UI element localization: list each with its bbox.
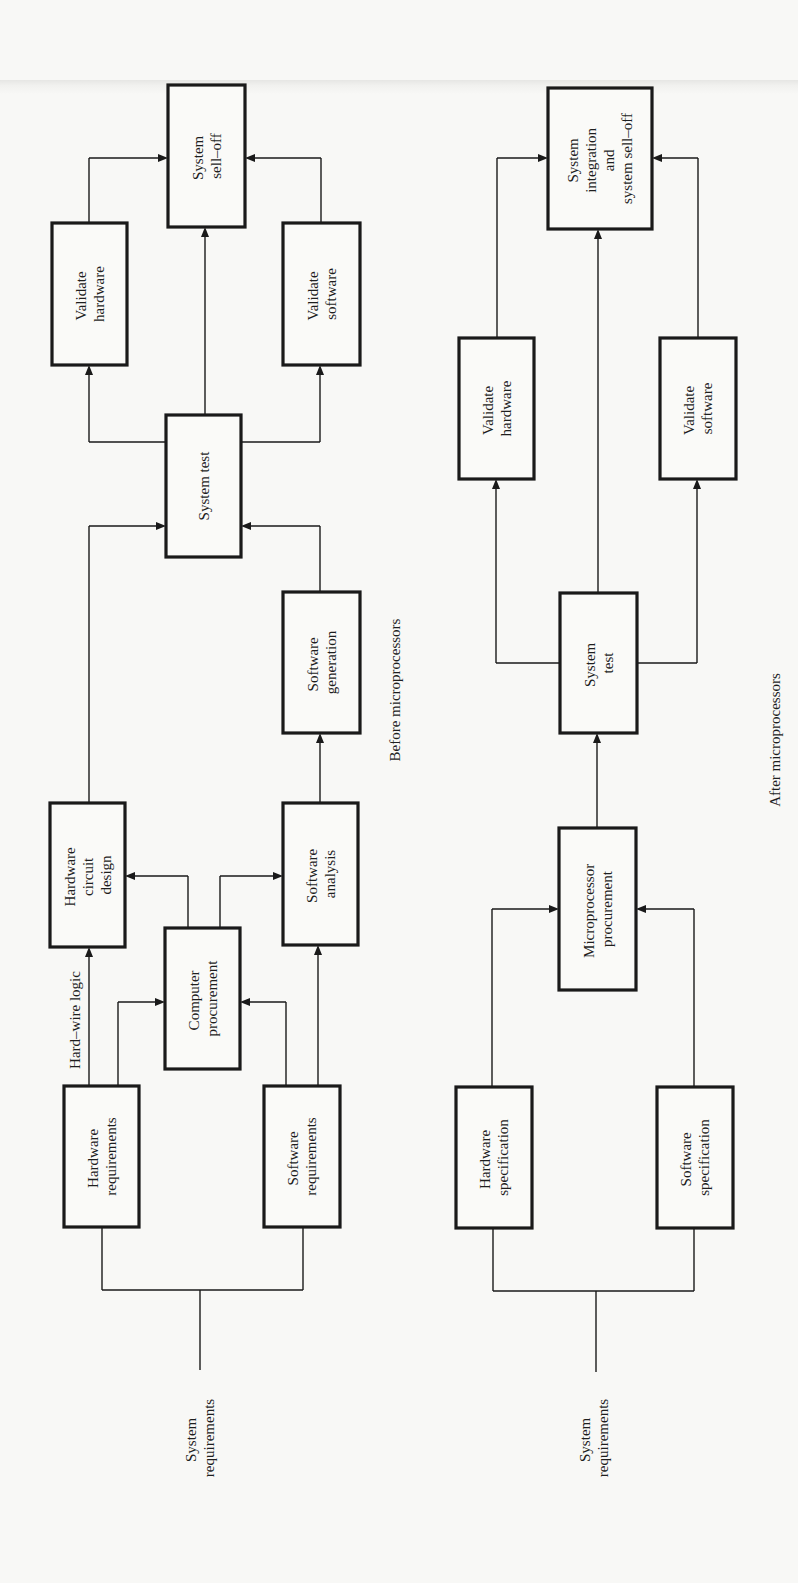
connector-systest-to-valsw [241, 365, 324, 442]
box-validate-software: Validate software [283, 223, 360, 365]
after-caption: After microprocessors [767, 673, 783, 807]
box-software-specification: Software specification [657, 1087, 733, 1228]
box-software-analysis: Software analysis [283, 803, 358, 945]
before-system-requirements-label: System requirements [183, 1399, 217, 1477]
connector-hwspec-to-micro [492, 905, 559, 1087]
box-after-system-test: System test [560, 593, 637, 733]
connector-computer-to-hwcircuit [125, 872, 188, 928]
connector-hwreq-to-hwcircuit [85, 947, 93, 1086]
before-diagram: Hardware requirements Software requireme… [50, 85, 403, 1477]
svg-text:System test: System test [196, 451, 212, 521]
connector-systest-to-selloff [201, 227, 209, 415]
box-after-validate-software: Validate software [660, 338, 736, 479]
box-system-sell-off: System sell–off [168, 85, 245, 227]
after-diagram: Hardware specification Software specific… [456, 88, 783, 1477]
after-input-connector [493, 1228, 694, 1372]
connector-swreq-to-computer [240, 998, 286, 1086]
box-system-integration-sell-off: System integration and system sell–off [548, 88, 652, 229]
connector-micro-to-systest [593, 733, 601, 828]
connector-valhw-to-selloff [89, 154, 168, 223]
connector-swspec-to-micro [636, 905, 694, 1087]
connector-after-systest-to-valhw [492, 479, 560, 663]
connector-hwreq-to-computer [118, 998, 165, 1086]
connector-hwcircuit-to-systest [89, 522, 166, 803]
box-software-requirements: Software requirements [264, 1086, 340, 1227]
after-system-requirements-label: System requirements [577, 1399, 611, 1477]
book-page: Hardware requirements Software requireme… [0, 0, 798, 1583]
before-input-connector [102, 1227, 303, 1370]
hard-wire-logic-label: Hard–wire logic [67, 971, 83, 1069]
box-software-generation: Software generation [283, 592, 360, 733]
box-after-validate-hardware: Validate hardware [459, 338, 534, 479]
box-system-test: System test [166, 415, 241, 557]
before-caption: Before microprocessors [387, 618, 403, 761]
connector-after-systest-to-valsw [637, 479, 701, 663]
connector-after-valhw-to-integration [497, 154, 548, 338]
box-microprocessor-procurement: Microprocessor procurement [559, 828, 636, 990]
connector-swreq-to-swanalysis [314, 945, 322, 1086]
connector-after-valsw-to-integration [652, 154, 698, 338]
box-computer-procurement: Computer procurement [165, 928, 240, 1069]
connector-after-systest-to-integration [594, 229, 602, 593]
connector-systest-to-valhw [85, 365, 166, 442]
connector-computer-to-swanalysis [220, 872, 283, 928]
box-hardware-requirements: Hardware requirements [64, 1086, 139, 1227]
connector-valsw-to-selloff [245, 154, 321, 223]
flow-diagrams: Hardware requirements Software requireme… [0, 0, 798, 1583]
box-validate-hardware: Validate hardware [52, 223, 127, 365]
connector-swgen-to-systest [241, 522, 320, 592]
box-hardware-specification: Hardware specification [456, 1087, 532, 1228]
box-hardware-circuit-design: Hardware circuit design [50, 803, 125, 947]
connector-swanalysis-to-swgen [316, 733, 324, 803]
